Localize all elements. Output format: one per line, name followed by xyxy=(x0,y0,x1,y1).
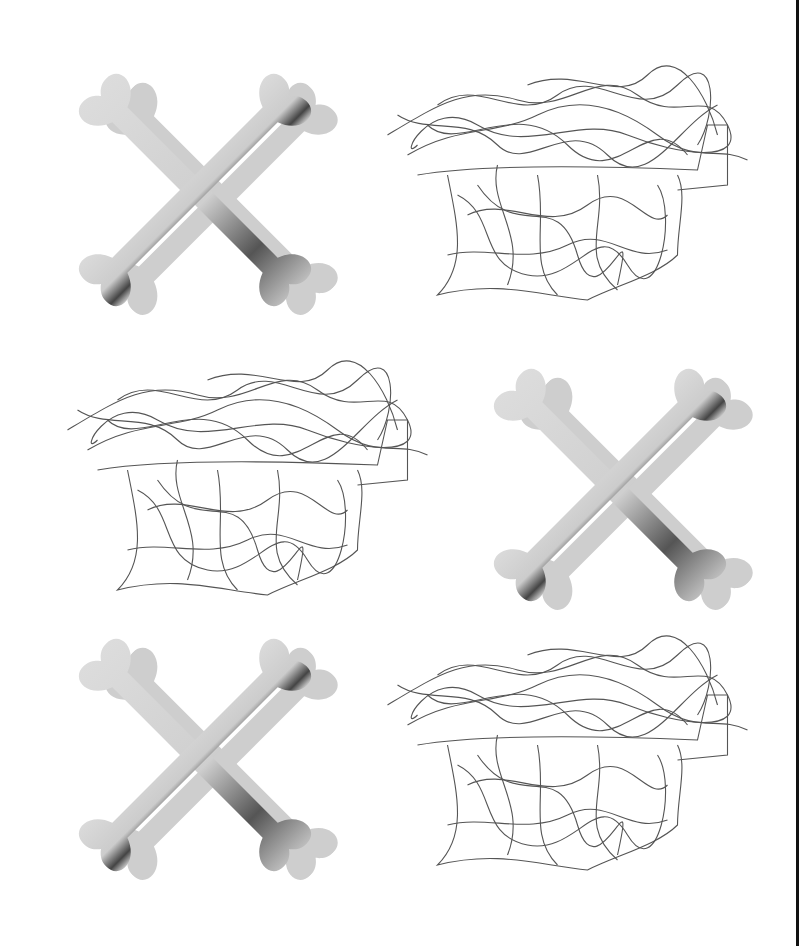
wire-chair-image-2 xyxy=(50,360,445,605)
crossed-bones-image-1 xyxy=(40,55,350,325)
wire-chair-image-3 xyxy=(370,635,765,880)
crossed-bones-image-3 xyxy=(40,620,350,890)
crossed-bones-image-2 xyxy=(455,350,765,620)
wire-chair-image-1 xyxy=(370,65,765,310)
